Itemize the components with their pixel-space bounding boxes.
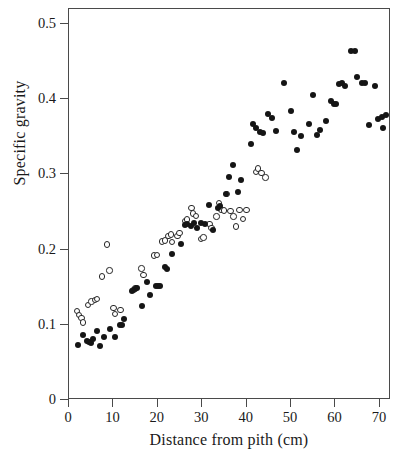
data-point-filled (223, 191, 229, 197)
data-point-filled (119, 322, 125, 328)
data-point-open (117, 307, 123, 313)
x-axis-tick-label: 60 (314, 410, 354, 425)
data-point-open (193, 213, 199, 219)
data-point-filled (269, 115, 275, 121)
data-point-filled (291, 129, 297, 135)
data-point-filled (362, 80, 368, 86)
data-point-open (243, 207, 249, 213)
data-point-filled (317, 127, 323, 133)
data-point-filled (178, 241, 184, 247)
data-point-open (94, 296, 100, 302)
data-point-filled (281, 80, 287, 86)
data-point-filled (366, 122, 372, 128)
data-point-open (138, 265, 144, 271)
data-point-filled (342, 83, 348, 89)
y-axis-tick (60, 98, 68, 99)
y-axis-tick (60, 399, 68, 400)
data-point-open (169, 239, 175, 245)
data-point-filled (230, 162, 236, 168)
y-axis-tick (60, 324, 68, 325)
data-point-filled (97, 343, 103, 349)
data-point-filled (352, 48, 358, 54)
data-point-filled (147, 292, 153, 298)
data-point-open (213, 213, 219, 219)
data-point-filled (235, 189, 241, 195)
data-point-open (176, 230, 182, 236)
data-point-open (104, 241, 110, 247)
data-point-open (230, 213, 236, 219)
data-points-layer (69, 9, 389, 398)
data-point-filled (298, 133, 304, 139)
x-axis-tick-label: 0 (48, 410, 88, 425)
data-point-filled (294, 147, 300, 153)
data-point-filled (169, 251, 175, 257)
x-axis-tick (201, 399, 202, 407)
data-point-filled (194, 225, 200, 231)
data-point-filled (134, 285, 140, 291)
data-point-filled (202, 221, 208, 227)
data-point-open (233, 223, 239, 229)
data-point-filled (310, 92, 316, 98)
scatter-chart-figure: Specific gravity 00.10.20.30.40.5 010203… (0, 0, 409, 462)
data-point-filled (238, 177, 244, 183)
data-point-open (106, 267, 112, 273)
y-axis-tick-label: 0.2 (38, 242, 56, 257)
x-axis-tick (246, 399, 247, 407)
x-axis-tick (112, 399, 113, 407)
x-axis-tick-label: 40 (226, 410, 266, 425)
data-point-open (80, 319, 86, 325)
data-point-filled (323, 118, 329, 124)
data-point-filled (314, 132, 320, 138)
data-point-open (236, 207, 242, 213)
data-point-open (262, 174, 268, 180)
x-axis-tick-label: 20 (137, 410, 177, 425)
x-axis-tick (379, 399, 380, 407)
x-axis-tick-label: 30 (181, 410, 221, 425)
data-point-open (140, 272, 146, 278)
data-point-open (168, 231, 174, 237)
x-axis-tick (157, 399, 158, 407)
x-axis-tick-label: 50 (270, 410, 310, 425)
data-point-filled (112, 334, 118, 340)
x-axis-tick (290, 399, 291, 407)
y-axis-tick (60, 249, 68, 250)
data-point-filled (248, 141, 254, 147)
data-point-filled (226, 174, 232, 180)
data-point-filled (206, 202, 212, 208)
data-point-filled (333, 101, 339, 107)
data-point-open (154, 252, 160, 258)
data-point-filled (273, 128, 279, 134)
data-point-open (99, 273, 105, 279)
x-axis-title: Distance from pith (cm) (68, 431, 390, 449)
data-point-filled (101, 334, 107, 340)
data-point-filled (383, 112, 389, 118)
data-point-open (200, 234, 206, 240)
data-point-filled (139, 303, 145, 309)
y-axis-tick-label: 0 (49, 392, 56, 407)
data-point-filled (157, 283, 163, 289)
y-axis-tick-label: 0.4 (38, 91, 56, 106)
data-point-filled (94, 328, 100, 334)
data-point-filled (260, 130, 266, 136)
x-axis-tick-label: 70 (359, 410, 399, 425)
data-point-filled (372, 83, 378, 89)
data-point-filled (75, 342, 81, 348)
y-axis-tick (60, 173, 68, 174)
x-axis-tick (334, 399, 335, 407)
data-point-filled (164, 266, 170, 272)
data-point-filled (107, 326, 113, 332)
y-axis-tick-label: 0.5 (38, 16, 56, 31)
data-point-filled (354, 74, 360, 80)
plot-area (68, 8, 390, 399)
data-point-filled (121, 316, 127, 322)
y-axis-tick-label: 0.3 (38, 166, 56, 181)
y-axis-tick-label: 0.1 (38, 317, 56, 332)
data-point-filled (288, 108, 294, 114)
x-axis-tick (68, 399, 69, 407)
x-axis-tick-label: 10 (92, 410, 132, 425)
data-point-filled (380, 125, 386, 131)
data-point-filled (90, 336, 96, 342)
data-point-filled (210, 227, 216, 233)
y-axis-tick (60, 23, 68, 24)
data-point-filled (306, 121, 312, 127)
